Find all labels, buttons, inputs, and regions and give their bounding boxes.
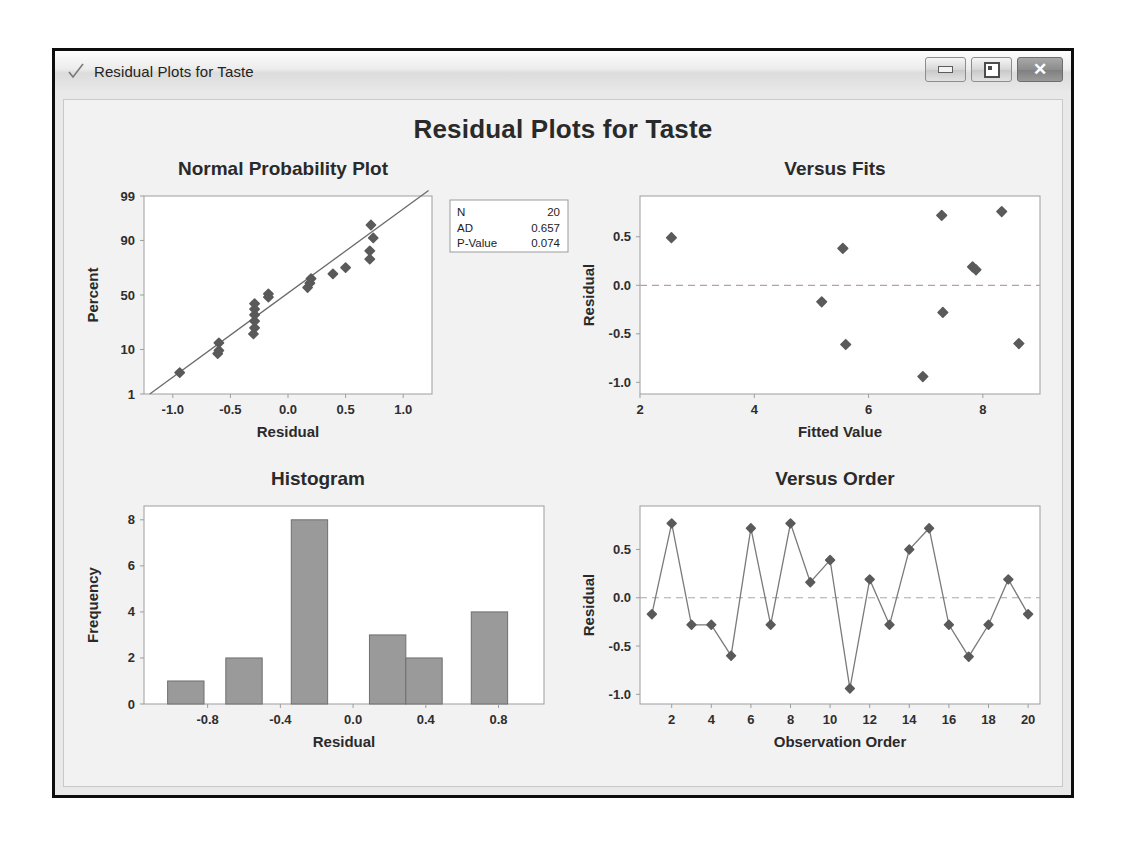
axis-tick-label: 8	[128, 512, 135, 527]
axis-tick-label: -0.4	[269, 712, 292, 727]
legend-label: P-Value	[457, 237, 497, 249]
axis-label: Residual	[580, 264, 597, 327]
axis-tick-label: 0.0	[613, 278, 631, 293]
chart-title-histogram: Histogram	[72, 468, 564, 490]
axis-tick-label: 0.8	[490, 712, 508, 727]
chart-histogram[interactable]: 02468-0.8-0.40.00.40.8ResidualFrequency	[82, 494, 574, 784]
legend-value: 0.074	[531, 237, 560, 249]
axis-tick-label: 14	[902, 712, 917, 727]
axis-tick-label: -1.0	[609, 375, 631, 390]
axis-tick-label: -0.8	[196, 712, 218, 727]
axis-tick-label: -0.5	[609, 639, 631, 654]
legend-label: N	[457, 206, 465, 218]
axis-tick-label: -1.0	[609, 687, 631, 702]
plot-frame	[640, 506, 1040, 704]
page-title: Residual Plots for Taste	[64, 114, 1062, 145]
axis-tick-label: 8	[787, 712, 794, 727]
legend-label: AD	[457, 222, 473, 234]
panel-histogram: Histogram 02468-0.8-0.40.00.40.8Residual…	[82, 468, 574, 788]
axis-label: Observation Order	[774, 733, 907, 750]
panel-versus-fits: Versus Fits -1.0-0.50.00.52468Fitted Val…	[578, 158, 1066, 458]
histogram-bar	[168, 681, 204, 704]
plot-frame	[144, 196, 432, 394]
window-titlebar[interactable]: Residual Plots for Taste ✕	[55, 51, 1071, 92]
axis-tick-label: 6	[128, 558, 135, 573]
axis-tick-label: 0.4	[417, 712, 436, 727]
axis-tick-label: 12	[862, 712, 876, 727]
axis-tick-label: 2	[636, 402, 643, 417]
chart-title-versus-order: Versus Order	[604, 468, 1066, 490]
axis-tick-label: 4	[751, 402, 759, 417]
histogram-bar	[369, 635, 405, 704]
axis-tick-label: 20	[1021, 712, 1035, 727]
axis-tick-label: 90	[121, 233, 135, 248]
axis-tick-label: -0.5	[609, 326, 631, 341]
axis-tick-label: -1.0	[162, 402, 184, 417]
axis-tick-label: 0	[128, 697, 135, 712]
axis-label: Frequency	[84, 566, 101, 643]
axis-label: Residual	[257, 423, 320, 440]
axis-tick-label: 50	[121, 288, 135, 303]
axis-tick-label: 99	[121, 189, 135, 204]
axis-tick-label: -0.5	[219, 402, 241, 417]
axis-tick-label: 0.0	[613, 590, 631, 605]
axis-tick-label: 2	[128, 650, 135, 665]
axis-tick-label: 6	[747, 712, 754, 727]
axis-tick-label: 4	[708, 712, 716, 727]
window-client-area: Residual Plots for Taste Normal Probabil…	[55, 91, 1071, 795]
axis-tick-label: 1	[128, 387, 135, 402]
axis-tick-label: 16	[942, 712, 956, 727]
axis-tick-label: 0.0	[279, 402, 297, 417]
axis-tick-label: 0.5	[613, 542, 631, 557]
chart-title-versus-fits: Versus Fits	[604, 158, 1066, 180]
minimize-button[interactable]	[925, 57, 966, 82]
axis-tick-label: 2	[668, 712, 675, 727]
graph-canvas: Residual Plots for Taste Normal Probabil…	[63, 99, 1063, 787]
axis-tick-label: 4	[128, 604, 136, 619]
axis-tick-label: 10	[823, 712, 837, 727]
histogram-bar	[406, 658, 442, 704]
plot-frame	[640, 196, 1040, 394]
axis-label: Residual	[313, 733, 376, 750]
restore-icon	[984, 62, 1000, 78]
axis-tick-label: 8	[979, 402, 986, 417]
close-icon: ✕	[1033, 61, 1047, 78]
axis-tick-label: 10	[121, 342, 135, 357]
axis-tick-label: 0.5	[337, 402, 355, 417]
legend-value: 0.657	[531, 222, 560, 234]
panel-versus-order: Versus Order -1.0-0.50.00.52468101214161…	[578, 468, 1066, 788]
axis-tick-label: 0.0	[344, 712, 362, 727]
chart-versus-fits[interactable]: -1.0-0.50.00.52468Fitted ValueResidual	[578, 184, 1066, 458]
histogram-bar	[471, 612, 507, 704]
window-controls: ✕	[925, 57, 1063, 82]
axis-tick-label: 6	[865, 402, 872, 417]
axis-label: Residual	[580, 574, 597, 637]
chart-normal-probability-plot[interactable]: 110509099-1.0-0.50.00.51.0ResidualPercen…	[82, 184, 574, 458]
axis-tick-label: 0.5	[613, 229, 631, 244]
minimize-icon	[938, 66, 953, 73]
checkmark-icon	[67, 62, 85, 80]
axis-tick-label: 18	[981, 712, 995, 727]
plot-window: Residual Plots for Taste ✕ Residual Plot…	[52, 48, 1074, 798]
axis-label: Fitted Value	[798, 423, 882, 440]
histogram-bar	[226, 658, 262, 704]
histogram-bar	[291, 520, 327, 704]
maximize-button[interactable]	[971, 57, 1012, 82]
chart-title-npp: Normal Probability Plot	[72, 158, 494, 180]
window-title: Residual Plots for Taste	[94, 63, 254, 80]
axis-label: Percent	[84, 267, 101, 322]
legend-value: 20	[547, 206, 560, 218]
chart-versus-order[interactable]: -1.0-0.50.00.52468101214161820Observatio…	[578, 494, 1066, 784]
panel-normal-probability-plot: Normal Probability Plot 110509099-1.0-0.…	[82, 158, 574, 458]
axis-tick-label: 1.0	[394, 402, 412, 417]
close-button[interactable]: ✕	[1017, 57, 1063, 82]
